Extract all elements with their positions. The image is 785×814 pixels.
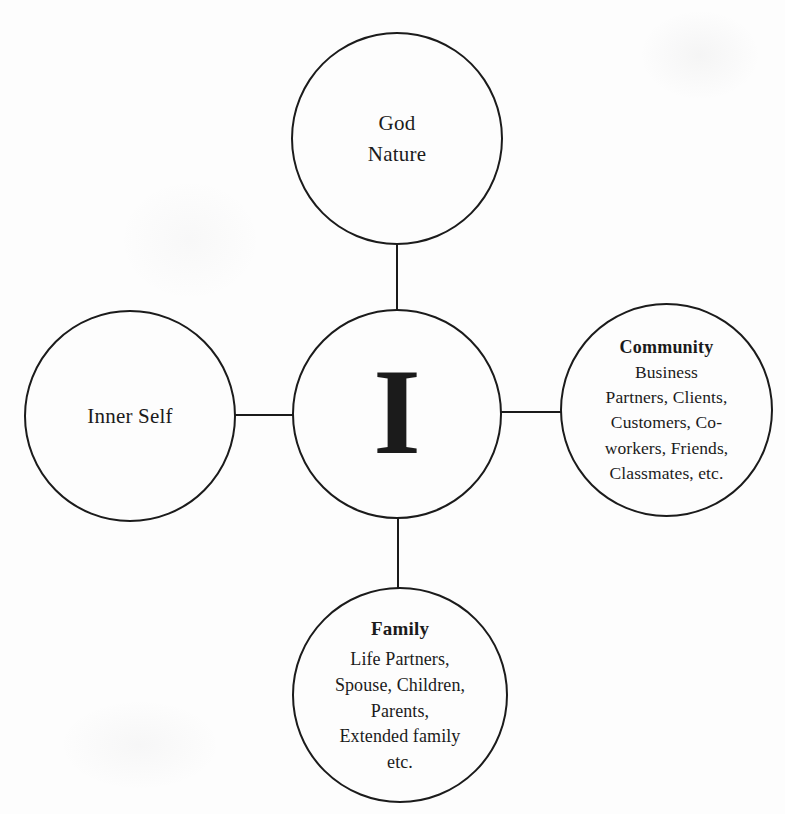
connector-center-to-community bbox=[498, 411, 564, 413]
node-community-line: Customers, Co- bbox=[605, 410, 729, 435]
node-family: Family Life Partners, Spouse, Children, … bbox=[292, 587, 508, 803]
scan-smudge bbox=[60, 700, 220, 790]
scan-smudge bbox=[640, 10, 760, 100]
node-i-center: I bbox=[292, 309, 502, 519]
node-god-nature-line: Nature bbox=[368, 139, 426, 169]
node-community-line: workers, Friends, bbox=[605, 436, 729, 461]
node-god-nature: God Nature bbox=[291, 32, 503, 245]
node-family-line: Extended family bbox=[335, 724, 465, 750]
node-family-line: Parents, bbox=[335, 699, 465, 725]
connector-center-to-god bbox=[396, 240, 398, 316]
node-family-line: Spouse, Children, bbox=[335, 673, 465, 699]
connector-center-to-family bbox=[397, 514, 399, 594]
scan-smudge bbox=[120, 180, 260, 300]
node-community-line: Business bbox=[605, 360, 729, 385]
node-community-heading: Community bbox=[620, 334, 714, 360]
node-god-nature-line: God bbox=[368, 108, 426, 138]
node-inner-self-label: Inner Self bbox=[87, 401, 172, 431]
node-community-line: Classmates, etc. bbox=[605, 461, 729, 486]
node-inner-self: Inner Self bbox=[24, 310, 236, 522]
node-community-line: Partners, Clients, bbox=[605, 385, 729, 410]
connector-center-to-inner-self bbox=[230, 414, 296, 416]
scanned-page: God Nature Inner Self I Community Busine… bbox=[0, 0, 785, 814]
node-family-line: etc. bbox=[335, 750, 465, 776]
node-i-label: I bbox=[373, 351, 420, 473]
node-family-line: Life Partners, bbox=[335, 647, 465, 673]
node-community: Community Business Partners, Clients, Cu… bbox=[560, 303, 773, 517]
node-family-heading: Family bbox=[371, 615, 429, 643]
